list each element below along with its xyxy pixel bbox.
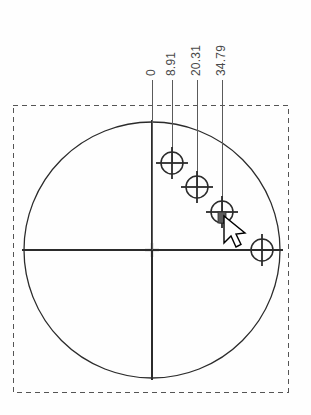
hole-crosshair-marker[interactable] [156,147,188,179]
cad-drawing-canvas[interactable]: 08.9120.3134.79 [0,0,311,415]
hole-crosshair-marker[interactable] [181,171,213,203]
dimension-label[interactable]: 0 [145,69,157,76]
hole-crosshair-marker[interactable] [246,234,278,266]
hole-marker-group[interactable] [156,147,278,266]
dimension-label[interactable]: 8.91 [165,52,177,76]
sheet-boundary [13,105,288,392]
dimension-label[interactable]: 34.79 [215,45,227,76]
dimension-label[interactable]: 20.31 [190,45,202,76]
drawing-surface[interactable] [0,0,311,415]
mouse-cursor [224,216,245,247]
